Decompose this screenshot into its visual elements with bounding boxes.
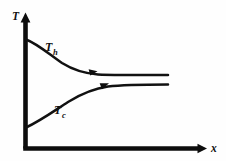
right-arrow-icon bbox=[198, 144, 208, 154]
curve-label-hot-sub: h bbox=[53, 47, 58, 57]
curve-cold-stream bbox=[26, 85, 168, 128]
plot-area: T x T h T c bbox=[0, 0, 226, 161]
curve-label-cold-sub: c bbox=[62, 110, 66, 120]
temperature-profile-diagram: T x T h T c bbox=[0, 0, 226, 161]
y-axis-label: T bbox=[12, 10, 20, 22]
x-axis-label: x bbox=[210, 142, 217, 154]
curve-label-hot-main: T bbox=[45, 40, 53, 54]
curve-label-cold-main: T bbox=[54, 103, 62, 117]
up-arrow-icon bbox=[21, 13, 31, 23]
